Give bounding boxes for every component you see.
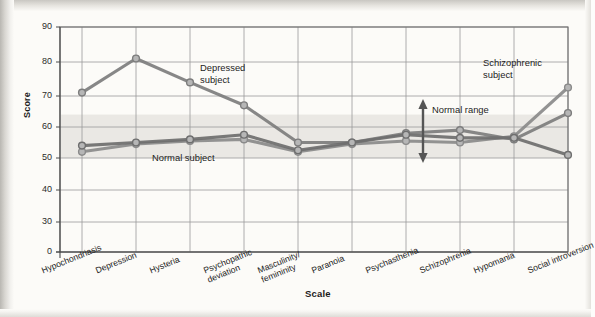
data-point — [349, 139, 356, 146]
y-tick-label: 0 — [26, 246, 52, 256]
data-point — [457, 134, 464, 141]
data-point — [187, 79, 194, 86]
annotation-line: subject — [200, 74, 245, 86]
data-point — [565, 110, 572, 117]
data-point — [457, 127, 464, 134]
y-tick-label: 40 — [26, 184, 52, 194]
data-point — [511, 134, 518, 141]
annotation-line: subject — [483, 69, 542, 81]
annotation-line: Normal subject — [152, 152, 215, 164]
normal-range-label: Normal range — [432, 104, 489, 116]
data-point — [295, 147, 302, 154]
data-point — [79, 142, 86, 149]
normal-subject-label: Normal subject — [152, 152, 215, 164]
data-point — [565, 152, 572, 159]
depressed-label: Depressedsubject — [200, 62, 245, 85]
annotation-line: Normal range — [432, 104, 489, 116]
data-point — [241, 131, 248, 138]
data-point — [565, 84, 572, 91]
data-point — [187, 136, 194, 143]
y-tick-label: 70 — [26, 90, 52, 100]
y-tick-label: 80 — [26, 56, 52, 66]
schizophrenic-label: Schizophrenicsubject — [483, 57, 542, 80]
data-point — [133, 55, 140, 62]
x-axis-title: Scale — [305, 288, 331, 299]
arrow-head-up — [418, 99, 427, 109]
data-point — [241, 102, 248, 109]
annotation-line: Schizophrenic — [483, 57, 542, 69]
annotation-line: Depressed — [200, 62, 245, 74]
y-tick-label: 30 — [26, 216, 52, 226]
y-tick-label: 60 — [26, 121, 52, 131]
data-point — [133, 139, 140, 146]
data-point — [295, 139, 302, 146]
data-point — [79, 89, 86, 96]
y-tick-label: 90 — [26, 21, 52, 31]
y-tick-label: 50 — [26, 152, 52, 162]
data-point — [403, 131, 410, 138]
